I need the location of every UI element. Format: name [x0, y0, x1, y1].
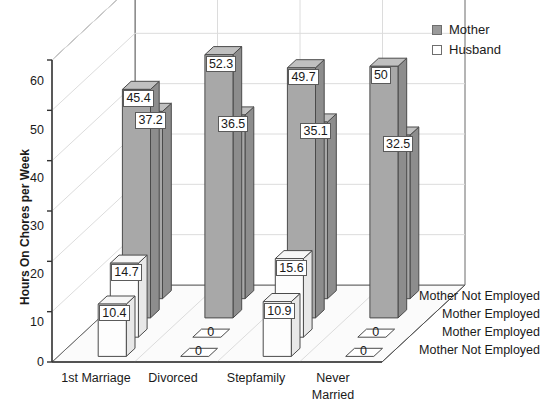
legend-swatch-husband-icon: [432, 45, 442, 55]
legend-label-mother: Mother: [449, 22, 489, 37]
bar-value-label: 14.7: [111, 264, 141, 280]
depth-label-front: Mother Not Employed: [278, 344, 540, 357]
y-tick-label: 0: [18, 356, 44, 369]
y-tick-label: 10: [18, 316, 44, 329]
legend-item-mother[interactable]: Mother: [432, 22, 501, 37]
bar-value-label: 0: [358, 344, 369, 358]
bar-value-label: 52.3: [206, 56, 236, 72]
depth-label-back: Mother Not Employed: [278, 290, 540, 303]
x-tick-label-never-married-line2: Married: [288, 389, 378, 402]
y-tick-label: 40: [18, 172, 44, 185]
bar-value-label: 37.2: [135, 112, 165, 128]
legend-swatch-mother-icon: [432, 25, 442, 35]
bar-value-label: 10.9: [264, 303, 294, 319]
y-tick-label: 50: [18, 124, 44, 137]
x-tick-label-never-married: Never: [288, 372, 378, 385]
bar-value-label: 15.6: [276, 260, 306, 276]
bar-value-label: 35.1: [300, 123, 330, 139]
legend-item-husband[interactable]: Husband: [432, 42, 501, 57]
bar-value-label: 10.4: [99, 305, 129, 321]
chart-legend: Mother Husband: [432, 22, 501, 62]
bar-value-label: 36.5: [218, 116, 248, 132]
chart-3d-bar: Hours On Chores per Week 60 50 40 30 20 …: [0, 0, 545, 410]
bar-value-label: 0: [370, 325, 381, 339]
depth-label-mid-back: Mother Employed: [278, 308, 540, 321]
y-tick-label: 20: [18, 268, 44, 281]
y-tick-label: 60: [18, 75, 44, 88]
depth-label-mid-front: Mother Employed: [278, 326, 540, 339]
bar-value-label: 0: [205, 325, 216, 339]
bar-value-label: 45.4: [123, 90, 153, 106]
bar-value-label: 32.5: [383, 136, 413, 152]
legend-label-husband: Husband: [449, 42, 501, 57]
x-tick-label-divorced: Divorced: [128, 372, 218, 385]
bar-value-label: 50: [371, 67, 391, 83]
bar-value-label: 0: [193, 344, 204, 358]
bar-value-label: 49.7: [288, 69, 318, 85]
y-tick-label: 30: [18, 220, 44, 233]
